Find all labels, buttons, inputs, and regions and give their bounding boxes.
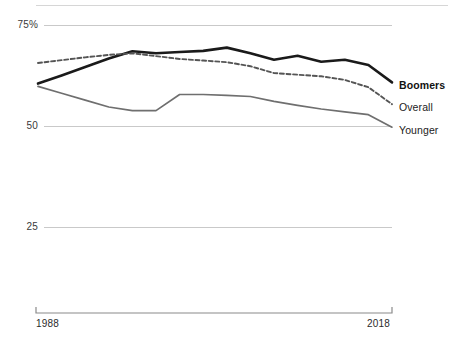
x-axis-bracket-path xyxy=(36,307,392,313)
series-label-younger: Younger xyxy=(399,124,438,136)
series-label-overall: Overall xyxy=(399,101,433,113)
series-label-boomers: Boomers xyxy=(399,79,445,91)
line-chart: 75% 50 25 1988 2018 Boomers Overall Youn… xyxy=(0,0,465,349)
x-axis-bracket xyxy=(0,0,465,349)
xtick-label-end: 2018 xyxy=(367,318,390,329)
xtick-label-start: 1988 xyxy=(36,318,59,329)
